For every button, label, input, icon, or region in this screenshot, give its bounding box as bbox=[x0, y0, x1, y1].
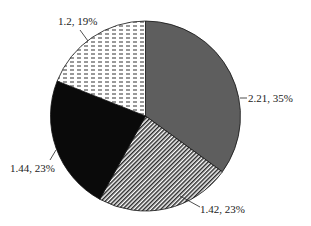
slice-label-2: 1.44, 23% bbox=[10, 162, 55, 174]
slice-label-3: 1.2, 19% bbox=[58, 15, 97, 27]
leader-line-2 bbox=[50, 150, 56, 160]
leader-line-3 bbox=[80, 30, 88, 41]
slice-label-1: 1.42, 23% bbox=[200, 203, 245, 215]
pie bbox=[50, 21, 240, 211]
slice-label-0: 2.21, 35% bbox=[248, 92, 293, 104]
pie-chart: 2.21, 35% 1.42, 23% 1.44, 23% 1.2, 19% bbox=[0, 0, 311, 226]
